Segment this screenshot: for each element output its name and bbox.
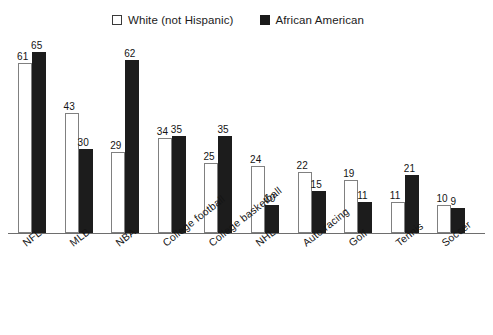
bar-rect xyxy=(125,60,139,233)
bar-value-label: 34 xyxy=(157,126,168,137)
bar-rect xyxy=(79,149,93,233)
bar-value-label: 61 xyxy=(17,51,28,62)
bar-rect xyxy=(32,52,46,233)
bar-value-label: 11 xyxy=(357,190,368,201)
bar-value-label: 30 xyxy=(78,137,89,148)
bar-value-label: 25 xyxy=(203,151,214,162)
bar-rect xyxy=(298,172,312,233)
bar-value-label: 35 xyxy=(171,124,182,135)
bar-value-label: 19 xyxy=(343,168,354,179)
bar-chart: White (not Hispanic) African American 61… xyxy=(0,0,493,335)
bar-value-label: 22 xyxy=(297,160,308,171)
bar-value-label: 9 xyxy=(450,196,456,207)
plot-area: 616543302962343525352410221519111121109 … xyxy=(0,0,493,335)
bar-rect xyxy=(65,113,79,233)
bar-value-label: 43 xyxy=(64,101,75,112)
bar-value-label: 62 xyxy=(124,48,135,59)
bar-rect xyxy=(18,63,32,233)
bar-rect xyxy=(172,136,186,233)
bar-value-label: 65 xyxy=(31,40,42,51)
bar-value-label: 11 xyxy=(390,190,401,201)
bar-rect xyxy=(391,202,405,233)
bar-rect xyxy=(158,138,172,233)
bar-rect xyxy=(111,152,125,233)
bar-value-label: 21 xyxy=(404,163,415,174)
bar-value-label: 10 xyxy=(436,193,447,204)
bar-rect xyxy=(344,180,358,233)
bar-rect xyxy=(437,205,451,233)
bar-value-label: 29 xyxy=(110,140,121,151)
bar-value-label: 24 xyxy=(250,154,261,165)
bar-value-label: 35 xyxy=(217,124,228,135)
bar-value-label: 15 xyxy=(311,179,322,190)
